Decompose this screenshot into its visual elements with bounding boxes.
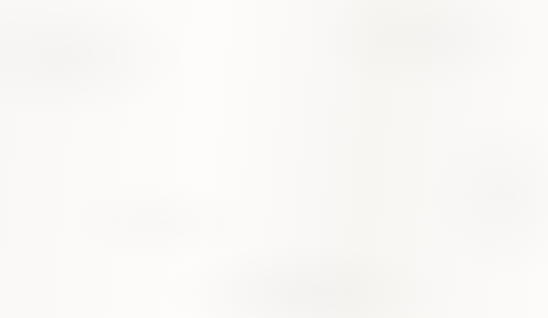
- bar-jewish: [288, 235, 316, 256]
- bar-catholic: [200, 170, 228, 256]
- gridline-350: [84, 60, 520, 61]
- gridline-250: [84, 116, 520, 117]
- bar-mormon: [376, 249, 404, 256]
- y-tick-label: 100: [40, 195, 80, 207]
- y-tick-label: 150: [40, 167, 80, 179]
- bar-other: [464, 249, 492, 256]
- gridline-100: [84, 201, 520, 202]
- gridline-50: [84, 229, 520, 230]
- y-tick-label: 250: [40, 110, 80, 122]
- bar-protestant: [112, 87, 140, 256]
- y-tick-label: 200: [40, 138, 80, 150]
- y-axis-tick-labels: 350 300 250 200 150 100 50 0: [40, 60, 80, 257]
- axis-baseline-0: [84, 256, 520, 257]
- y-tick-label: 0: [40, 251, 80, 263]
- y-tick-label: 350: [40, 54, 80, 66]
- y-tick-label: 50: [40, 223, 80, 235]
- plot-area: [84, 60, 520, 257]
- x-axis-title: Religion: [84, 287, 520, 301]
- gridline-150: [84, 173, 520, 174]
- gridline-300: [84, 88, 520, 89]
- x-tick-label-other: Other: [416, 264, 536, 276]
- chart-title: Religion of Members of Congress: [60, 18, 500, 41]
- y-tick-label: 300: [40, 82, 80, 94]
- chart-screenshot: Religion of Members of Congress Number 3…: [0, 0, 548, 318]
- gridline-200: [84, 144, 520, 145]
